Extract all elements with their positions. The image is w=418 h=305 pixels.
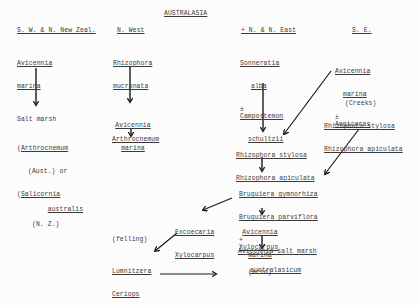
node-sw-avicennia: Avicennia marina	[17, 45, 52, 106]
region-sw-nz: S. W. & N. New Zeal.	[17, 27, 96, 35]
node-creeks-label: (Creeks)	[345, 100, 376, 108]
node-lumnitzera: Lumnitzera Ceriops (wet) Aegiceras Aegia…	[112, 253, 155, 305]
diagram-title: AUSTRALASIA	[164, 10, 207, 18]
node-excoecaria: Excoecaria Xylocarpus	[175, 214, 214, 275]
diagram-canvas: AUSTRALASIA S. W. & N. New Zeal. N. West…	[0, 0, 418, 305]
node-mid-avicennia: Avicennia marina	[238, 214, 282, 275]
node-nw-rhizophora: Rhizophora mucronata	[113, 45, 152, 106]
node-arid: (arid)	[248, 269, 272, 277]
region-se: S. E.	[352, 27, 372, 35]
arrow-brug-excoecaria	[203, 198, 232, 210]
node-felling: (felling)	[112, 236, 147, 244]
region-n-ne: + N. & N. East	[241, 27, 296, 35]
node-salt-marsh-heading: Salt marsh	[17, 116, 56, 124]
region-nw: N. West	[117, 27, 145, 35]
node-salt-marsh-species: (Arthrocnemum (Aust.) or (Salicornia aus…	[17, 130, 83, 244]
arrow-excoecaria-lumnitzera	[155, 233, 177, 251]
node-nw-arthrocnemum: Arthrocnemum	[112, 136, 159, 144]
node-avicennia-salt-marsh: Avicennia salt marsh	[238, 248, 317, 256]
node-creeks-rhizophora: Rhizophora stylosa Rhizophora apiculata	[324, 108, 403, 169]
